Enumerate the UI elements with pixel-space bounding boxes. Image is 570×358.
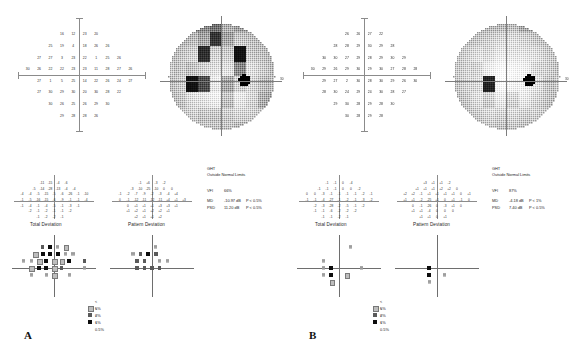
deviation-value: 0 bbox=[457, 205, 465, 209]
probability-symbol bbox=[182, 268, 185, 271]
deviation-value: -2 bbox=[355, 188, 363, 192]
sensitivity-value: 26 bbox=[92, 114, 100, 118]
sensitivity-value: 19 bbox=[58, 44, 66, 48]
probability-symbol bbox=[361, 275, 364, 278]
probability-symbol bbox=[48, 245, 52, 249]
probability-symbol bbox=[159, 282, 162, 285]
legend-symbol-stipple bbox=[373, 299, 376, 302]
deviation-value: +1 bbox=[140, 205, 148, 209]
sensitivity-value: 14 bbox=[81, 79, 89, 83]
deviation-value: +2 bbox=[148, 210, 156, 214]
sensitivity-value: 26 bbox=[354, 32, 362, 36]
sensitivity-value: 22 bbox=[115, 90, 123, 94]
sensitivity-value: 29 bbox=[320, 67, 328, 71]
probability-symbol bbox=[339, 275, 342, 278]
deviation-value: 0 bbox=[409, 205, 417, 209]
grayscale-vertical-axis bbox=[221, 16, 222, 136]
deviation-value: +1 bbox=[449, 199, 457, 203]
sensitivity-value: 27 bbox=[35, 90, 43, 94]
deviation-value: -2 bbox=[66, 210, 74, 214]
deviation-value: -3 bbox=[441, 205, 449, 209]
deviation-value: +1 bbox=[140, 210, 148, 214]
probability-symbol bbox=[342, 247, 345, 250]
sensitivity-value: 20 bbox=[81, 90, 89, 94]
probability-symbol bbox=[144, 275, 147, 278]
deviation-value: 0 bbox=[433, 210, 441, 214]
probability-symbol bbox=[166, 259, 169, 262]
probability-symbol bbox=[459, 275, 462, 278]
probability-symbol bbox=[148, 247, 151, 250]
probability-symbol bbox=[345, 273, 351, 279]
probability-symbol bbox=[52, 266, 58, 272]
deviation-value: -1 bbox=[311, 199, 319, 203]
sensitivity-value: 28 bbox=[104, 67, 112, 71]
deviation-value: -26 bbox=[66, 193, 74, 197]
probability-symbol bbox=[48, 252, 52, 256]
probability-symbol bbox=[143, 266, 147, 270]
deviation-value: -2 bbox=[417, 199, 425, 203]
deviation-value: +2 bbox=[401, 193, 409, 197]
deviation-value: +3 bbox=[156, 205, 164, 209]
deviation-value: +1 bbox=[401, 199, 409, 203]
probability-symbol bbox=[60, 266, 64, 270]
deviation-value: -4 bbox=[82, 199, 90, 203]
probability-symbol bbox=[421, 289, 424, 292]
probability-symbol bbox=[360, 266, 363, 269]
probability-symbol bbox=[171, 254, 174, 257]
sensitivity-value: 30 bbox=[366, 44, 374, 48]
deviation-value: -4 bbox=[26, 205, 34, 209]
sensitivity-value: 28 bbox=[104, 90, 112, 94]
sensitivity-value: 25 bbox=[104, 56, 112, 60]
deviation-value: -12 bbox=[132, 199, 140, 203]
deviation-value: -1 bbox=[351, 199, 359, 203]
probability-symbol bbox=[46, 289, 49, 292]
sensitivity-value: 5 bbox=[58, 79, 66, 83]
probability-symbol bbox=[76, 275, 79, 278]
deviation-value: 0 bbox=[453, 188, 461, 192]
deviation-value: -1 bbox=[323, 182, 331, 186]
deviation-value: -1 bbox=[343, 193, 351, 197]
deviation-value: -1 bbox=[124, 199, 132, 203]
deviation-value: -9 bbox=[140, 193, 148, 197]
deviation-value: +1 bbox=[425, 193, 433, 197]
deviation-value: -1 bbox=[58, 210, 66, 214]
probability-symbol bbox=[444, 268, 447, 271]
probability-symbol bbox=[61, 282, 64, 285]
deviation-value: -1 bbox=[34, 205, 42, 209]
sensitivity-value: 26 bbox=[104, 44, 112, 48]
sensitivity-value: 30 bbox=[24, 67, 32, 71]
probability-symbol bbox=[329, 266, 333, 270]
legend-symbol-solid bbox=[88, 320, 92, 324]
probability-symbol bbox=[23, 268, 26, 271]
probability-symbol bbox=[327, 254, 330, 257]
probability-symbol bbox=[30, 259, 33, 262]
sensitivity-value: 27 bbox=[389, 67, 397, 71]
axis-tick bbox=[303, 72, 304, 79]
sensitivity-value: 1 bbox=[47, 79, 55, 83]
grayscale-right-label: 30 bbox=[280, 77, 284, 81]
legend-symbol-dark bbox=[88, 313, 92, 317]
deviation-value: -15 bbox=[46, 182, 54, 186]
deviation-value: 0 bbox=[441, 199, 449, 203]
deviation-value: -2 bbox=[311, 205, 319, 209]
probability-symbol bbox=[425, 247, 428, 250]
probability-symbol bbox=[414, 282, 417, 285]
probability-symbol bbox=[37, 259, 43, 265]
total-deviation-numeric-map-a: -11-15-4-6-5-14-28-13-4-4-4-4-5-15-5-6-2… bbox=[14, 175, 100, 219]
probability-symbol bbox=[316, 275, 319, 278]
probability-symbol bbox=[174, 261, 177, 264]
probability-symbol bbox=[121, 261, 124, 264]
probability-symbol bbox=[154, 245, 157, 248]
deviation-value: 0 bbox=[449, 210, 457, 214]
probability-symbol bbox=[322, 273, 325, 276]
probability-symbol bbox=[316, 282, 319, 285]
sensitivity-value: 29 bbox=[400, 56, 408, 60]
pattern-deviation-numeric-map-a: -1+6-3-2-3-10-25-1000-1-2-7-9-2-3-4+40-1… bbox=[112, 175, 198, 219]
deviation-value: +1 bbox=[465, 193, 473, 197]
sensitivity-value: 26 bbox=[58, 102, 66, 106]
sensitivity-value: 28 bbox=[354, 102, 362, 106]
probability-symbol bbox=[361, 261, 364, 264]
probability-symbol bbox=[414, 268, 417, 271]
sensitivity-value: 26 bbox=[126, 67, 134, 71]
probability-symbol bbox=[159, 275, 162, 278]
